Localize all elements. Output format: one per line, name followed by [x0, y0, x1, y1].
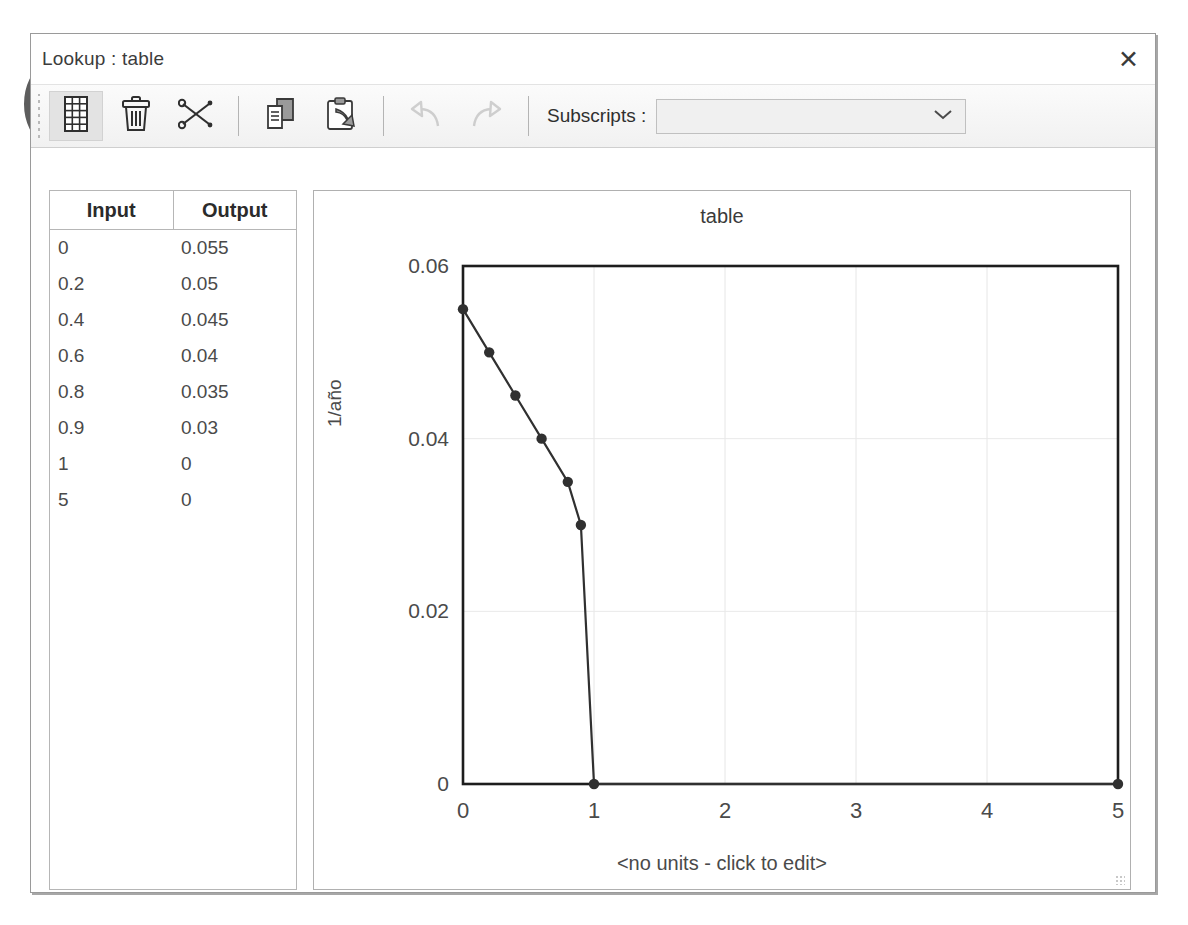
y-tick-label: 0.06	[408, 254, 449, 277]
cell-input[interactable]: 0.8	[50, 374, 173, 410]
cell-output[interactable]: 0.04	[173, 338, 296, 374]
redo-arrow-icon	[468, 98, 504, 134]
plot-frame	[463, 266, 1118, 784]
table-row[interactable]: 00.055	[50, 230, 296, 267]
cut-button[interactable]	[169, 91, 223, 141]
subscripts-dropdown[interactable]	[656, 99, 966, 134]
toolbar-separator-3	[528, 96, 529, 136]
paste-button[interactable]	[314, 91, 368, 141]
undo-button[interactable]	[399, 91, 453, 141]
cell-output[interactable]: 0.045	[173, 302, 296, 338]
data-series-line	[463, 309, 1118, 784]
cell-input[interactable]: 0.6	[50, 338, 173, 374]
chart-plot-area[interactable]: 01234500.020.040.06	[314, 191, 1132, 891]
chart-panel[interactable]: table 1/año 01234500.020.040.06 <no unit…	[313, 190, 1131, 890]
table-body: 00.0550.20.050.40.0450.60.040.80.0350.90…	[50, 230, 296, 519]
data-point-marker[interactable]	[536, 433, 546, 443]
table-row[interactable]: 0.90.03	[50, 410, 296, 446]
data-point-marker[interactable]	[1113, 779, 1123, 789]
column-header-input[interactable]: Input	[50, 191, 173, 230]
dialog-body: Input Output 00.0550.20.050.40.0450.60.0…	[31, 148, 1155, 892]
copy-button[interactable]	[254, 91, 308, 141]
cell-output[interactable]: 0.035	[173, 374, 296, 410]
x-tick-label: 3	[850, 798, 862, 823]
lookup-table-panel[interactable]: Input Output 00.0550.20.050.40.0450.60.0…	[49, 190, 297, 890]
cell-input[interactable]: 5	[50, 482, 173, 518]
x-tick-label: 1	[588, 798, 600, 823]
cell-output[interactable]: 0	[173, 482, 296, 518]
table-row[interactable]: 0.80.035	[50, 374, 296, 410]
cell-input[interactable]: 0	[50, 230, 173, 267]
subscripts-label: Subscripts :	[547, 105, 646, 127]
scissors-icon	[178, 98, 214, 134]
lookup-table: Input Output 00.0550.20.050.40.0450.60.0…	[50, 191, 296, 518]
data-point-marker[interactable]	[563, 477, 573, 487]
delete-button[interactable]	[109, 91, 163, 141]
x-tick-label: 2	[719, 798, 731, 823]
x-tick-label: 4	[981, 798, 993, 823]
toolbar-separator-2	[383, 96, 384, 136]
table-row[interactable]: 10	[50, 446, 296, 482]
toolbar-separator-1	[238, 96, 239, 136]
cell-output[interactable]: 0.05	[173, 266, 296, 302]
undo-arrow-icon	[408, 98, 444, 134]
table-row[interactable]: 0.60.04	[50, 338, 296, 374]
y-tick-label: 0.02	[408, 599, 449, 622]
data-point-marker[interactable]	[458, 304, 468, 314]
trash-icon	[119, 95, 153, 137]
data-point-marker[interactable]	[510, 390, 520, 400]
copy-icon	[263, 96, 299, 136]
data-point-marker[interactable]	[484, 347, 494, 357]
cell-input[interactable]: 1	[50, 446, 173, 482]
toolbar-drag-handle[interactable]	[34, 94, 44, 138]
cell-input[interactable]: 0.4	[50, 302, 173, 338]
cell-input[interactable]: 0.9	[50, 410, 173, 446]
paste-icon	[323, 96, 359, 136]
table-header-row: Input Output	[50, 191, 296, 230]
cell-output[interactable]: 0.03	[173, 410, 296, 446]
table-grid-icon	[61, 95, 91, 137]
chevron-down-icon	[933, 107, 953, 125]
toolbar: Subscripts :	[31, 84, 1155, 148]
x-tick-label: 0	[457, 798, 469, 823]
data-point-marker[interactable]	[589, 779, 599, 789]
close-icon[interactable]: ✕	[1105, 39, 1151, 79]
table-row[interactable]: 0.40.045	[50, 302, 296, 338]
title-bar: Lookup : table ✕	[31, 34, 1155, 84]
x-axis-units-label[interactable]: <no units - click to edit>	[314, 852, 1130, 875]
table-row[interactable]: 50	[50, 482, 296, 518]
table-row[interactable]: 0.20.05	[50, 266, 296, 302]
table-grid-button[interactable]	[49, 91, 103, 141]
lookup-dialog-window: Lookup : table ✕	[30, 33, 1156, 893]
column-header-output[interactable]: Output	[173, 191, 296, 230]
data-point-marker[interactable]	[576, 520, 586, 530]
y-tick-label: 0.04	[408, 427, 449, 450]
cell-input[interactable]: 0.2	[50, 266, 173, 302]
resize-grip-icon[interactable]	[1115, 875, 1125, 885]
cell-output[interactable]: 0.055	[173, 230, 296, 267]
y-tick-label: 0	[437, 772, 449, 795]
window-title: Lookup : table	[42, 48, 164, 70]
x-tick-label: 5	[1112, 798, 1124, 823]
cell-output[interactable]: 0	[173, 446, 296, 482]
redo-button[interactable]	[459, 91, 513, 141]
